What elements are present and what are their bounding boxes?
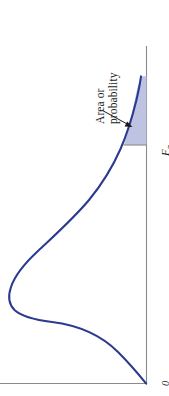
f-distribution-figure: Area or probability Fα 0 xyxy=(0,0,169,396)
density-curve xyxy=(9,76,146,383)
distribution-plot xyxy=(0,0,169,396)
shaded-tail-area xyxy=(124,76,147,145)
annotation-arrow-icon xyxy=(103,111,133,128)
